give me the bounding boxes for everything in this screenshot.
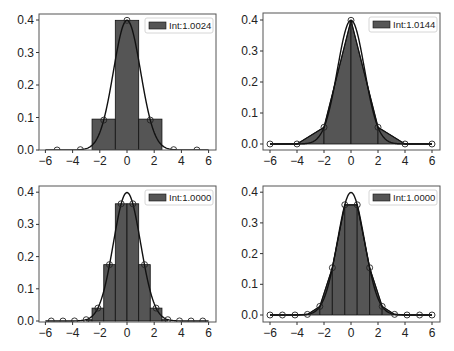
x-tick-label: 2	[151, 154, 158, 168]
x-tick-label: 6	[429, 326, 436, 340]
x-tick-label: 4	[178, 154, 185, 168]
y-tick-label: 0.1	[17, 282, 34, 296]
x-tick-label: −6	[39, 326, 53, 340]
y-tick-label: 0.0	[17, 143, 34, 157]
x-tick-label: 6	[205, 326, 212, 340]
legend: Int:1.0024	[145, 18, 213, 33]
x-tick-label: −4	[66, 326, 80, 340]
x-tick-label: −4	[290, 326, 304, 340]
y-tick-label: 0.4	[17, 13, 34, 27]
x-tick-label: 2	[375, 154, 382, 168]
y-tick-label: 0.3	[17, 217, 34, 231]
y-tick-label: 0.3	[241, 44, 258, 58]
y-tick-label: 0.1	[241, 277, 258, 291]
x-tick-label: −6	[263, 326, 277, 340]
trapezoid	[324, 20, 351, 144]
y-tick-label: 0.2	[17, 250, 34, 264]
x-tick-label: 4	[178, 326, 185, 340]
x-tick-label: 0	[124, 326, 131, 340]
y-tick-label: 0.3	[17, 46, 34, 60]
x-tick-label: −6	[263, 154, 277, 168]
x-tick-label: 0	[124, 154, 131, 168]
x-tick-label: −6	[39, 154, 53, 168]
y-tick-label: 0.3	[241, 216, 258, 230]
x-tick-label: 0	[348, 326, 355, 340]
plot-area	[45, 17, 208, 153]
bar	[92, 119, 115, 150]
x-tick-label: 2	[375, 326, 382, 340]
x-tick-label: 0	[348, 154, 355, 168]
y-tick-label: 0.0	[241, 137, 258, 151]
y-tick-label: 0.0	[17, 314, 34, 328]
x-tick-label: −2	[93, 326, 107, 340]
x-tick-label: −4	[290, 154, 304, 168]
y-tick-label: 0.1	[17, 111, 34, 125]
y-tick-label: 0.2	[17, 78, 34, 92]
bar	[139, 265, 151, 321]
panel-top-left: −6−4−202460.00.10.20.30.4Int:1.0024	[17, 13, 216, 168]
legend-label: Int:1.0000	[169, 192, 211, 203]
bar	[104, 265, 116, 321]
plot-area	[267, 193, 435, 318]
y-tick-label: 0.2	[241, 75, 258, 89]
x-tick-label: −2	[317, 326, 331, 340]
y-tick-label: 0.1	[241, 106, 258, 120]
legend: Int:1.0000	[369, 190, 437, 205]
legend: Int:1.0144	[369, 17, 437, 32]
panel-bottom-left: −6−4−202460.00.10.20.30.4Int:1.0000	[17, 185, 216, 340]
bar	[139, 119, 162, 150]
y-tick-label: 0.4	[241, 185, 258, 199]
y-tick-label: 0.0	[241, 308, 258, 322]
plot-area	[45, 193, 208, 324]
x-tick-label: −2	[317, 154, 331, 168]
panel-bottom-right: −6−4−202460.00.10.20.30.4Int:1.0000	[241, 185, 440, 340]
x-tick-label: −2	[93, 154, 107, 168]
x-tick-label: 6	[429, 154, 436, 168]
x-tick-label: 4	[402, 326, 409, 340]
panel-top-right: −6−4−202460.00.10.20.30.4Int:1.0144	[241, 13, 440, 168]
legend-label: Int:1.0144	[393, 19, 435, 30]
legend-swatch	[149, 194, 166, 201]
plot-area	[267, 17, 435, 147]
trapezoid	[351, 20, 378, 144]
y-tick-label: 0.2	[241, 247, 258, 261]
figure: −6−4−202460.00.10.20.30.4Int:1.0024−6−4−…	[0, 0, 454, 351]
y-tick-label: 0.4	[17, 185, 34, 199]
x-tick-label: 4	[402, 154, 409, 168]
legend-swatch	[373, 21, 390, 28]
legend-label: Int:1.0000	[393, 192, 435, 203]
legend-swatch	[373, 194, 390, 201]
legend-label: Int:1.0024	[169, 20, 211, 31]
x-tick-label: −4	[66, 154, 80, 168]
x-tick-label: 6	[205, 154, 212, 168]
y-tick-label: 0.4	[241, 13, 258, 27]
legend-swatch	[149, 22, 166, 29]
x-tick-label: 2	[151, 326, 158, 340]
legend: Int:1.0000	[145, 190, 213, 205]
trapezoid	[345, 205, 357, 315]
